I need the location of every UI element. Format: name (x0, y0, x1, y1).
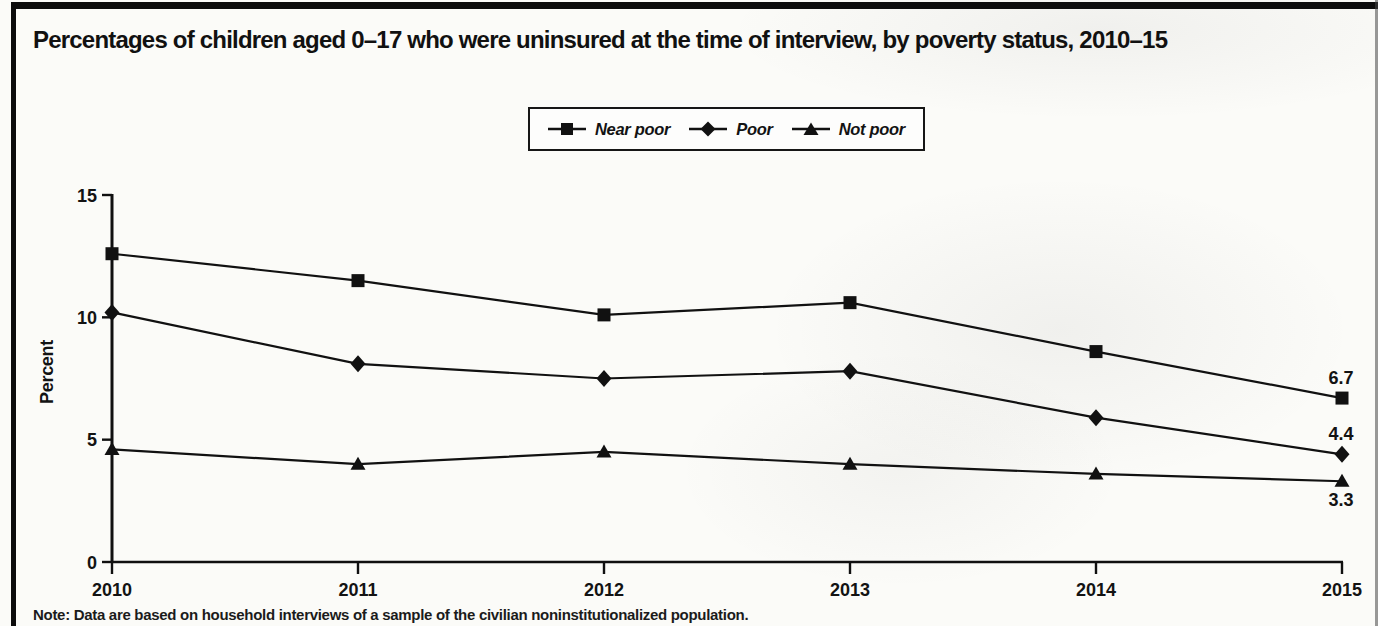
x-tick-label: 2011 (338, 580, 377, 600)
series-line-poor (112, 312, 1342, 454)
line-chart: 0510152010201120122013201420156.74.43.3 (0, 0, 1378, 626)
y-tick-label: 10 (77, 308, 97, 328)
y-tick-label: 0 (87, 553, 97, 573)
series-near-poor: 6.7 (106, 247, 1354, 404)
square-marker (352, 274, 365, 287)
diamond-marker (1335, 446, 1350, 463)
series-not-poor: 3.3 (105, 442, 1354, 510)
scanned-chartbook-figure: Percentages of children aged 0–17 who we… (0, 0, 1378, 626)
square-marker (598, 308, 611, 321)
x-tick-label: 2015 (1322, 580, 1362, 600)
square-marker (106, 247, 119, 260)
x-tick-label: 2013 (830, 580, 870, 600)
y-tick-label: 5 (87, 430, 97, 450)
y-axis-title: Percent (37, 340, 58, 404)
x-tick-label: 2014 (1076, 580, 1116, 600)
square-marker (1336, 392, 1349, 405)
series-end-value-label: 3.3 (1328, 490, 1353, 510)
series-line-near-poor (112, 254, 1342, 398)
axes: 051015201020112012201320142015 (77, 186, 1362, 601)
x-tick-label: 2010 (92, 580, 132, 600)
square-marker (1090, 345, 1103, 358)
y-tick-label: 15 (77, 186, 97, 206)
x-tick-label: 2012 (584, 580, 624, 600)
diamond-marker (843, 363, 858, 380)
diamond-marker (351, 355, 366, 372)
series-end-value-label: 6.7 (1328, 368, 1353, 388)
series-line-not-poor (112, 449, 1342, 481)
triangle-marker (105, 442, 120, 455)
series-end-value-label: 4.4 (1328, 424, 1353, 444)
square-marker (844, 296, 857, 309)
series-poor: 4.4 (105, 304, 1354, 463)
diamond-marker (1089, 409, 1104, 426)
triangle-marker (597, 444, 612, 457)
diamond-marker (597, 370, 612, 387)
figure-note: Note: Data are based on household interv… (33, 606, 748, 623)
